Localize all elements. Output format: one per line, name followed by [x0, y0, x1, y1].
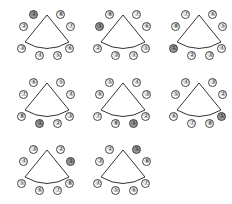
seat-marker: ⑥ — [208, 10, 217, 19]
seat-marker: ④ — [35, 51, 44, 60]
seat-marker: ⑦ — [53, 186, 62, 195]
seat-marker: ③ — [95, 157, 104, 166]
seat-marker: ⑤ — [111, 186, 120, 195]
seat-marker: ⑥ — [35, 186, 44, 195]
seat-marker: ⑧ — [142, 157, 151, 166]
seating-panel-4: ⑥⑤④③②①⑧⑦ — [0, 68, 77, 136]
seating-panel-2: ⑧⑦⑥⑤④③②① — [76, 0, 153, 68]
seat-marker: ⑤ — [105, 78, 114, 87]
seat-marker: ⑧ — [65, 179, 74, 188]
seat-marker: ④ — [132, 78, 141, 87]
seat-marker: ⑦ — [132, 10, 141, 19]
seat-marker: ③ — [111, 51, 120, 60]
seat-marker: ② — [56, 145, 65, 154]
seat-marker: ⑤ — [218, 22, 227, 31]
seat-marker: ① — [129, 119, 138, 128]
seat-marker: ⑦ — [93, 112, 102, 121]
seat-marker: ② — [105, 145, 114, 154]
seat-marker: ⑦ — [187, 119, 196, 128]
seat-marker: ⑤ — [53, 51, 62, 60]
seat-marker: ① — [217, 112, 226, 121]
seat-marker: ③ — [65, 112, 74, 121]
seat-marker: ③ — [205, 51, 214, 60]
seating-panel-6: ④③②①⑧⑦⑥⑤ — [152, 68, 229, 136]
seat-marker: ⑥ — [142, 22, 151, 31]
seat-marker: ⑤ — [17, 179, 26, 188]
seat-marker: ⑥ — [29, 78, 38, 87]
seat-marker: ① — [29, 10, 38, 19]
seating-panel-8: ②①⑧⑦⑥⑤④③ — [76, 135, 153, 203]
seat-marker: ⑤ — [141, 44, 150, 53]
seat-marker: ⑦ — [141, 179, 150, 188]
seat-marker: ⑧ — [171, 22, 180, 31]
seat-marker: ⑧ — [56, 10, 65, 19]
seat-marker: ③ — [142, 90, 151, 99]
seat-marker: ③ — [208, 78, 217, 87]
seat-marker: ② — [19, 22, 28, 31]
seat-marker: ① — [35, 119, 44, 128]
seat-marker: ⑦ — [66, 22, 75, 31]
seat-marker: ⑧ — [105, 10, 114, 19]
seat-marker: ① — [169, 44, 178, 53]
seat-marker: ② — [93, 44, 102, 53]
seat-marker: ④ — [217, 44, 226, 53]
seat-marker: ⑥ — [169, 112, 178, 121]
seat-marker: ② — [141, 112, 150, 121]
seat-marker: ⑤ — [171, 90, 180, 99]
seat-marker: ② — [218, 90, 227, 99]
seat-marker: ⑦ — [181, 10, 190, 19]
seating-panel-7: ③②①⑧⑦⑥⑤④ — [0, 135, 77, 203]
seat-marker: ④ — [19, 157, 28, 166]
seat-marker: ① — [132, 145, 141, 154]
seat-marker: ⑧ — [17, 112, 26, 121]
seat-marker: ⑦ — [19, 90, 28, 99]
seat-marker: ⑧ — [205, 119, 214, 128]
seat-marker: ④ — [129, 51, 138, 60]
seating-panel-5: ⑤④③②①⑧⑦⑥ — [76, 68, 153, 136]
seating-panel-3: ⑦⑥⑤④③②①⑧ — [152, 0, 229, 68]
seating-panel-1: ①⑧⑦⑥⑤④③② — [0, 0, 77, 68]
seat-marker: ④ — [66, 90, 75, 99]
seat-marker: ⑥ — [95, 90, 104, 99]
seat-marker: ⑥ — [129, 186, 138, 195]
seat-marker: ① — [95, 22, 104, 31]
seat-marker: ④ — [181, 78, 190, 87]
seat-marker: ① — [66, 157, 75, 166]
seat-marker: ⑧ — [111, 119, 120, 128]
seat-marker: ⑥ — [65, 44, 74, 53]
seat-marker: ② — [53, 119, 62, 128]
seat-marker: ③ — [29, 145, 38, 154]
seat-marker: ⑤ — [56, 78, 65, 87]
seat-marker: ③ — [17, 44, 26, 53]
seat-marker: ② — [187, 51, 196, 60]
seat-marker: ④ — [93, 179, 102, 188]
